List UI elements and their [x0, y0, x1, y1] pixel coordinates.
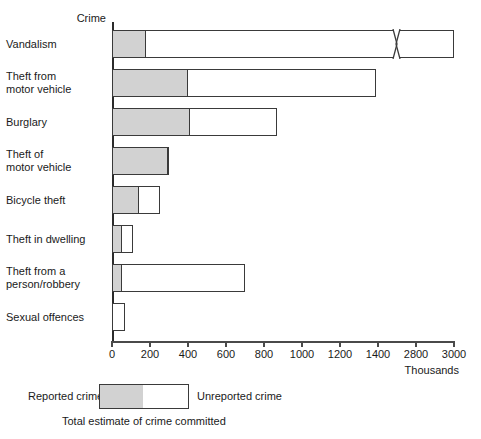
x-axis-tick: [377, 341, 378, 347]
category-label: Theft from motor vehicle: [6, 70, 106, 95]
x-axis-tick-label: 3000: [442, 348, 466, 360]
x-axis-tick-label: 400: [179, 348, 197, 360]
x-axis-line: [112, 341, 454, 343]
crime-bar-chart: Crime VandalismTheft from motor vehicleB…: [0, 0, 481, 439]
bar-total: [112, 186, 160, 214]
legend-total-label: Total estimate of crime committed: [62, 415, 226, 428]
axis-break-marker: [391, 29, 405, 59]
bar-total: [112, 69, 376, 97]
legend: Reported crime Unreported crime Total es…: [0, 378, 481, 436]
x-axis-units-label: Thousands: [405, 364, 459, 376]
bar-total: [112, 264, 245, 292]
category-label: Theft from a person/robbery: [6, 265, 106, 290]
category-label: Theft of motor vehicle: [6, 148, 106, 173]
bar-reported-segment: [113, 148, 168, 174]
x-axis-tick: [453, 341, 454, 347]
y-axis-caption-box: Crime: [0, 8, 106, 26]
x-axis-tick: [149, 341, 150, 347]
bar-reported-segment: [113, 187, 139, 213]
bar-total: [112, 147, 169, 175]
category-label: Bicycle theft: [6, 194, 106, 207]
bar-total: [112, 225, 133, 253]
x-axis-tick: [187, 341, 188, 347]
x-axis-tick: [225, 341, 226, 347]
legend-unreported-label: Unreported crime: [197, 390, 282, 403]
bar-reported-segment: [113, 31, 146, 57]
x-axis-tick: [415, 341, 416, 347]
bar-reported-segment: [113, 109, 190, 135]
category-label: Theft in dwelling: [6, 233, 106, 246]
legend-swatch-reported-fill: [100, 385, 143, 408]
category-label: Vandalism: [6, 38, 106, 51]
bar-reported-segment: [113, 265, 122, 291]
x-axis-tick: [339, 341, 340, 347]
x-axis-tick-label: 600: [217, 348, 235, 360]
x-axis-tick-label: 1400: [366, 348, 390, 360]
category-label: Burglary: [6, 116, 106, 129]
x-axis-tick-label: 200: [141, 348, 159, 360]
bar-reported-segment: [113, 226, 122, 252]
bar-reported-segment: [113, 70, 188, 96]
x-axis-tick: [301, 341, 302, 347]
legend-swatch: [99, 384, 189, 409]
x-axis-tick-label: 2800: [404, 348, 428, 360]
x-axis-tick-label: 800: [255, 348, 273, 360]
y-axis-caption: Crime: [77, 13, 106, 24]
category-label: Sexual offences: [6, 311, 106, 324]
legend-reported-label: Reported crime: [28, 390, 103, 403]
bar-total: [112, 303, 125, 331]
x-axis-tick-label: 0: [109, 348, 115, 360]
x-axis-tick: [111, 341, 112, 347]
x-axis-tick-label: 1200: [328, 348, 352, 360]
bar-total: [112, 108, 277, 136]
x-axis-tick-label: 1000: [290, 348, 314, 360]
x-axis-tick: [263, 341, 264, 347]
